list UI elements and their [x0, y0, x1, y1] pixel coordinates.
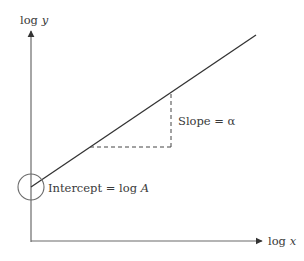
- slope-label: Slope = α: [178, 114, 236, 128]
- intercept-label: Intercept = log A: [48, 181, 149, 195]
- y-axis-label: log y: [20, 13, 49, 27]
- x-axis-label: log x: [268, 234, 297, 248]
- log-log-diagram: log y log x Slope = α Intercept = log A: [0, 0, 304, 261]
- regression-line: [31, 35, 256, 187]
